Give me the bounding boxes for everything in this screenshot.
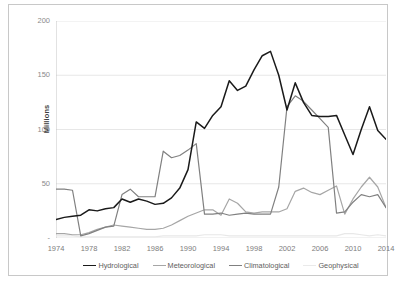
legend-swatch-icon xyxy=(229,265,242,266)
x-tick-label: 2002 xyxy=(272,244,302,253)
chart-frame: Millions -50100150200 197419781982198619… xyxy=(8,4,388,276)
legend-item-hydrological[interactable]: Hydrological xyxy=(83,261,138,270)
x-tick-label: 2006 xyxy=(305,244,335,253)
chart-plot-svg xyxy=(56,21,386,238)
y-tick-label: 150 xyxy=(24,71,50,79)
x-tick-label: 1994 xyxy=(206,244,236,253)
y-axis-title: Millions xyxy=(42,74,51,164)
y-tick-label: 200 xyxy=(24,17,50,25)
legend-label: Geophysical xyxy=(318,261,358,270)
series-line-meteorological xyxy=(56,177,386,235)
x-tick-label: 1982 xyxy=(107,244,137,253)
legend-item-climatological[interactable]: Climatological xyxy=(229,261,289,270)
chart-legend: HydrologicalMeteorologicalClimatological… xyxy=(56,258,386,272)
plot-area xyxy=(56,21,386,238)
legend-item-geophysical[interactable]: Geophysical xyxy=(303,261,358,270)
legend-swatch-icon xyxy=(303,265,316,266)
legend-item-meteorological[interactable]: Meteorological xyxy=(153,261,215,270)
y-tick-label: - xyxy=(24,234,50,242)
y-tick-label: 50 xyxy=(24,180,50,188)
x-tick-label: 1990 xyxy=(173,244,203,253)
legend-swatch-icon xyxy=(83,265,96,266)
legend-label: Climatological xyxy=(244,261,289,270)
series-line-hydrological xyxy=(56,51,386,219)
x-tick-label: 2014 xyxy=(371,244,398,253)
series-line-geophysical xyxy=(56,234,386,237)
x-tick-label: 1986 xyxy=(140,244,170,253)
legend-label: Hydrological xyxy=(98,261,138,270)
x-tick-label: 1998 xyxy=(239,244,269,253)
x-tick-label: 2010 xyxy=(338,244,368,253)
y-tick-label: 100 xyxy=(24,126,50,134)
x-tick-label: 1974 xyxy=(41,244,71,253)
legend-label: Meteorological xyxy=(168,261,215,270)
x-tick-label: 1978 xyxy=(74,244,104,253)
legend-swatch-icon xyxy=(153,265,166,266)
